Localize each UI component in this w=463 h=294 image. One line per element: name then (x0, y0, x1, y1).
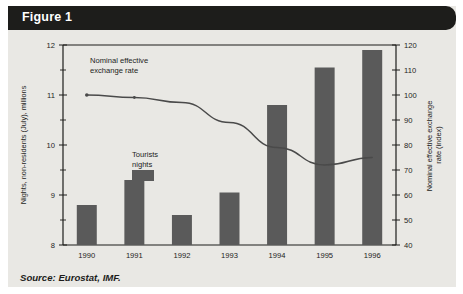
x-tick-label-1990: 1990 (78, 251, 95, 260)
right-tick-label: 60 (404, 191, 412, 200)
right-axis-title: Nominal effective exchange rate (index) (425, 99, 443, 192)
x-tick-label-1994: 1994 (269, 251, 286, 260)
chart-area: 89101112 405060708090100110120 199019911… (8, 30, 456, 287)
right-tick-label: 90 (404, 116, 412, 125)
annotation-exchange-rate-line1: Nominal effective (90, 56, 148, 65)
bar-series-tourists-nights (77, 50, 382, 245)
chart-svg: 89101112 405060708090100110120 199019911… (8, 30, 456, 287)
x-tick-label-1991: 1991 (126, 251, 143, 260)
figure-panel: Figure 1 89101112 405060708090100110120 … (0, 0, 463, 294)
left-tick-label: 11 (47, 91, 55, 100)
right-axis-tick-labels: 405060708090100110120 (404, 41, 417, 250)
annotation-tourists-nights-line2: nights (132, 160, 152, 169)
figure-header-bar: Figure 1 (8, 6, 456, 30)
legend-swatch-tourists-nights (132, 170, 154, 181)
page-margin-bottom (0, 287, 463, 294)
source-note: Source: Eurostat, IMF. (20, 272, 121, 283)
annotation-tourists-nights: Tourists nights (132, 150, 160, 169)
left-axis-title: Nights, non-residents (July), millions (19, 85, 28, 204)
bar-1995 (315, 68, 335, 246)
annotation-tourists-nights-line1: Tourists (132, 150, 158, 159)
right-tick-label: 100 (404, 91, 417, 100)
x-tick-label-1996: 1996 (364, 251, 381, 260)
x-tick-label-1992: 1992 (173, 251, 190, 260)
x-axis-tick-labels: 1990199119921993199419951996 (78, 251, 380, 260)
right-tick-label: 40 (404, 241, 412, 250)
bar-1990 (77, 205, 97, 245)
page-margin-left (0, 0, 8, 294)
bar-1996 (362, 50, 382, 245)
bar-1994 (267, 105, 287, 245)
right-tick-label: 50 (404, 216, 412, 225)
right-axis-title-line1: Nominal effective exchange (425, 101, 434, 192)
right-tick-label: 80 (404, 141, 412, 150)
bar-1993 (220, 193, 240, 246)
left-tick-label: 10 (47, 141, 55, 150)
annotation-exchange-rate: Nominal effective exchange rate (90, 56, 150, 75)
annotation-exchange-rate-line2: exchange rate (90, 66, 138, 75)
left-axis-tick-labels: 89101112 (47, 41, 55, 250)
left-tick-label: 12 (47, 41, 55, 50)
right-tick-label: 110 (404, 66, 416, 75)
right-tick-label: 70 (404, 166, 412, 175)
figure-title: Figure 1 (22, 10, 72, 24)
page-margin-right (456, 0, 463, 294)
line-marker-start (85, 93, 89, 97)
bar-1991 (124, 180, 144, 245)
x-tick-label-1993: 1993 (221, 251, 238, 260)
x-tick-label-1995: 1995 (316, 251, 333, 260)
left-tick-label: 8 (51, 241, 55, 250)
left-tick-label: 9 (51, 191, 55, 200)
line-marker-1991 (133, 96, 136, 99)
right-axis-title-line2: rate (index) (434, 126, 443, 163)
bar-1992 (172, 215, 192, 245)
right-tick-label: 120 (404, 41, 417, 50)
